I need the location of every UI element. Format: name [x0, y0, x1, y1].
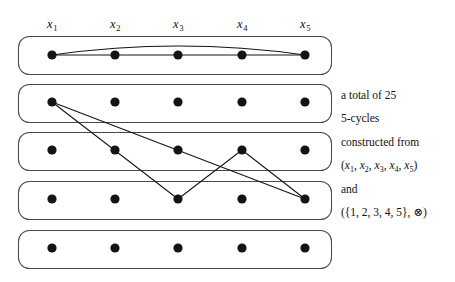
vertex-row-2-x1 — [47, 97, 56, 106]
vertex-row-2-x5 — [300, 97, 309, 106]
caption-line-constructed: constructed from — [341, 137, 419, 149]
vertex-row-5-x5 — [300, 243, 309, 252]
vertex-row-3-x3 — [173, 145, 182, 154]
tuple-var-subscript: 2 — [365, 165, 369, 174]
caption-line-total: a total of 25 — [341, 90, 396, 102]
tuple-var-subscript: 4 — [395, 165, 399, 174]
column-header-letter: x — [300, 17, 306, 31]
vertex-row-3-x4 — [237, 145, 246, 154]
caption-line-tuple: (x1, x2, x3, x4, x5) — [341, 160, 417, 172]
vertex-row-1-x4 — [237, 50, 246, 59]
algebra-close-paren: ) — [423, 206, 427, 218]
column-header-subscript: 2 — [116, 23, 120, 33]
caption-line-algebra: ({1, 2, 3, 4, 5}, ⊗) — [341, 207, 427, 219]
vertex-row-4-x5 — [300, 194, 309, 203]
column-header-letter: x — [173, 17, 179, 31]
column-header-x3: x3 — [173, 18, 183, 31]
tuple-var-letter: x — [389, 159, 394, 171]
vertex-row-4-x4 — [237, 194, 246, 203]
vertex-row-1-x1 — [47, 50, 56, 59]
tensor-operator-icon: ⊗ — [413, 206, 423, 218]
vertex-row-2-x4 — [237, 97, 246, 106]
column-header-x2: x2 — [110, 18, 120, 31]
vertex-row-2-x2 — [110, 97, 119, 106]
column-header-letter: x — [237, 17, 243, 31]
vertex-row-5-x1 — [47, 243, 56, 252]
vertex-row-4-x2 — [110, 194, 119, 203]
column-header-letter: x — [47, 17, 53, 31]
column-header-letter: x — [110, 17, 116, 31]
vertex-row-3-x5 — [300, 145, 309, 154]
caption-line-and: and — [341, 184, 358, 196]
tuple-var-subscript: 3 — [380, 165, 384, 174]
column-header-subscript: 1 — [53, 23, 57, 33]
column-header-x4: x4 — [237, 18, 247, 31]
column-header-subscript: 3 — [179, 23, 183, 33]
vertex-row-4-x1 — [47, 194, 56, 203]
column-header-x5: x5 — [300, 18, 310, 31]
tuple-var-subscript: 5 — [409, 165, 413, 174]
vertex-row-3-x2 — [110, 145, 119, 154]
column-header-x1: x1 — [47, 18, 57, 31]
tuple-var-subscript: 1 — [350, 165, 354, 174]
column-header-subscript: 5 — [306, 23, 310, 33]
caption-line-cycles: 5-cycles — [341, 113, 379, 125]
vertex-row-3-x1 — [47, 145, 56, 154]
vertex-row-5-x3 — [173, 243, 182, 252]
five-cycles-figure: x1x2x3x4x5 a total of 255-cyclesconstruc… — [0, 0, 455, 282]
vertex-row-5-x2 — [110, 243, 119, 252]
algebra-set: ({1, 2, 3, 4, 5}, — [341, 206, 413, 218]
vertex-row-1-x2 — [110, 50, 119, 59]
vertex-row-1-x3 — [173, 50, 182, 59]
vertex-row-4-x3 — [173, 194, 182, 203]
vertex-row-5-x4 — [237, 243, 246, 252]
vertex-row-2-x3 — [173, 97, 182, 106]
vertex-row-1-x5 — [300, 50, 309, 59]
tuple-var-letter: x — [375, 159, 380, 171]
column-header-subscript: 4 — [243, 23, 247, 33]
